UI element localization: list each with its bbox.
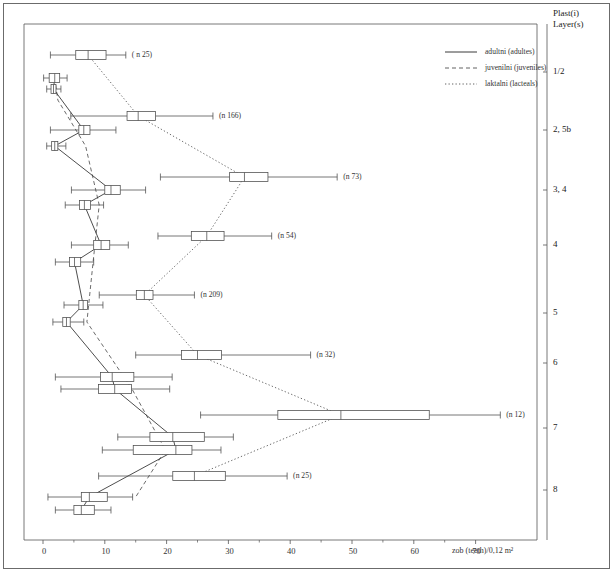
x-tick-label: 30 [222, 546, 236, 556]
corner-title-line2: Layer(s) [553, 19, 583, 30]
y-tick-label-layer: 8 [553, 484, 558, 494]
axis-corner-title: Plast(i) Layer(s) [553, 8, 583, 30]
sample-size-label: (n 32) [317, 350, 335, 359]
sample-size-label: (n 166) [219, 111, 241, 120]
sample-size-label: (n 73) [343, 172, 361, 181]
sample-size-label: (n 25) [293, 471, 311, 480]
y-tick-label-layer: 3, 4 [553, 184, 567, 194]
figure-page: Plast(i) Layer(s) adultni (adultes)juven… [0, 0, 615, 574]
x-axis-title: zob (teeth)/0,12 m² [452, 546, 513, 555]
x-tick-label: 60 [408, 546, 422, 556]
legend-entry-juveniles: juvenilni (juveniles) [485, 63, 546, 72]
y-tick-label-layer: 7 [553, 422, 558, 432]
sample-size-label: (n 209) [200, 290, 222, 299]
y-tick-label-layer: 4 [553, 239, 558, 249]
y-tick-label-layer: 6 [553, 357, 558, 367]
corner-title-line1: Plast(i) [553, 8, 583, 19]
legend-entry-lacteals: laktalni (lacteals) [485, 79, 538, 88]
y-tick-label-layer: 5 [553, 307, 558, 317]
x-tick-label: 10 [99, 546, 113, 556]
x-tick-label: 40 [284, 546, 298, 556]
x-tick-label: 0 [37, 546, 51, 556]
y-tick-label-layer: 2, 5b [553, 124, 571, 134]
x-tick-label: 50 [346, 546, 360, 556]
sample-size-label: (n 54) [278, 231, 296, 240]
x-tick-label: 20 [161, 546, 175, 556]
legend-entry-adults: adultni (adultes) [485, 47, 535, 56]
sample-size-label: (n 12) [506, 410, 524, 419]
sample-size-label: ( n 25) [132, 50, 152, 59]
y-tick-label-layer: 1/2 [553, 66, 565, 76]
